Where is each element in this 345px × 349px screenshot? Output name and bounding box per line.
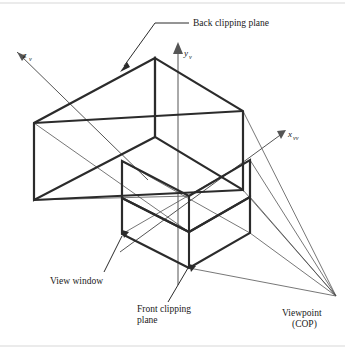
frustum-diagram-canvas: z v y v x vv Back clipping plane View wi…: [0, 0, 345, 349]
back-clipping-plane-arrowhead: [120, 62, 130, 72]
annotation-labels-group: Back clipping plane View window Front cl…: [50, 18, 322, 330]
frustum-side-edges: [34, 111, 243, 200]
front-clipping-plane-quad: [122, 197, 250, 268]
z-axis-subscript: v: [29, 55, 32, 62]
y-axis-label: y: [183, 48, 188, 58]
projection-ray-3: [250, 233, 336, 296]
front-clipping-plane-label-line1: Front clipping: [137, 304, 191, 314]
back-plane-right-face: [155, 58, 243, 190]
front-clipping-plane-label-line2: plane: [137, 315, 158, 325]
viewpoint-label-line2: (COP): [292, 319, 317, 330]
viewpoint-label-line1: Viewpoint: [282, 308, 322, 318]
projection-ray-6: [243, 190, 336, 296]
x-axis-label: x: [287, 129, 292, 139]
projection-ray-1: [250, 160, 336, 296]
back-clipping-plane-quad: [34, 58, 155, 200]
x-axis-arrowhead: [277, 130, 286, 139]
y-axis-arrowhead: [173, 42, 183, 54]
annotation-leaders-group: [104, 23, 189, 302]
projection-ray-4: [189, 268, 336, 296]
view-window-label: View window: [50, 276, 103, 286]
y-axis-subscript: v: [189, 53, 192, 60]
view-window-leader: [104, 236, 122, 272]
z-axis-label: z: [22, 50, 27, 60]
x-axis-subscript: vv: [293, 134, 299, 141]
view-frustum-figure: z v y v x vv Back clipping plane View wi…: [0, 0, 345, 349]
back-clipping-plane-label: Back clipping plane: [193, 18, 269, 28]
projection-rays-group: [189, 111, 336, 296]
